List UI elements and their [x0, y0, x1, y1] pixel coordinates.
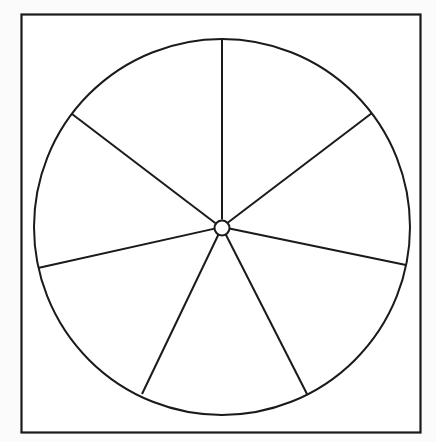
center-hub [215, 221, 230, 236]
figure-canvas [0, 0, 436, 442]
sector-diagram-svg [0, 0, 436, 442]
